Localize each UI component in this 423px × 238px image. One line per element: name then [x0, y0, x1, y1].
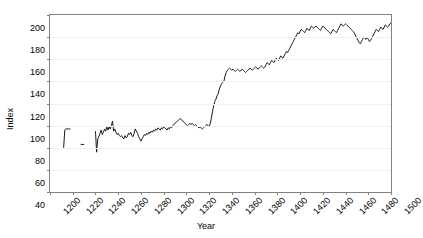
y-tick-label: 80	[35, 156, 45, 165]
x-tick-label: 1220	[85, 196, 106, 217]
x-tick-label: 1400	[289, 196, 310, 217]
series-segment	[95, 23, 391, 152]
y-tick-mark	[47, 126, 50, 127]
y-tick-label: 60	[35, 178, 45, 187]
y-tick-label: 160	[30, 68, 45, 77]
y-tick-mark	[47, 81, 50, 82]
x-tick-label: 1460	[357, 196, 378, 217]
y-tick-mark	[47, 37, 50, 38]
y-tick-label: 140	[30, 90, 45, 99]
y-tick-label: 200	[30, 24, 45, 33]
x-axis-title: Year	[0, 221, 412, 231]
y-tick-mark	[47, 148, 50, 149]
gridline-y	[50, 126, 391, 127]
gridline-y	[50, 104, 391, 105]
x-tick-label: 1340	[221, 196, 242, 217]
y-tick-label: 120	[30, 112, 45, 121]
x-tick-label: 1440	[335, 196, 356, 217]
gridline-y	[50, 37, 391, 38]
y-axis-labels: 406080100120140160180200	[0, 14, 45, 193]
x-tick-label: 1500	[403, 196, 423, 217]
x-tick-label: 1480	[380, 196, 401, 217]
y-tick-label: 100	[30, 134, 45, 143]
y-tick-mark	[47, 170, 50, 171]
plot-area	[49, 14, 392, 193]
y-tick-label: 40	[35, 201, 45, 210]
y-tick-mark	[47, 59, 50, 60]
x-tick-label: 1300	[176, 196, 197, 217]
y-tick-label: 180	[30, 46, 45, 55]
y-tick-mark	[47, 104, 50, 105]
x-tick-label: 1360	[244, 196, 265, 217]
series-segment	[64, 129, 71, 148]
x-tick-label: 1320	[198, 196, 219, 217]
y-tick-mark	[47, 15, 50, 16]
x-tick-label: 1380	[266, 196, 287, 217]
gridline-y	[50, 59, 391, 60]
x-tick-label: 1280	[153, 196, 174, 217]
gridline-y	[50, 170, 391, 171]
x-tick-label: 1420	[312, 196, 333, 217]
x-tick-label: 1240	[107, 196, 128, 217]
gridline-y	[50, 81, 391, 82]
x-tick-label: 1200	[62, 196, 83, 217]
gridline-y	[50, 148, 391, 149]
x-tick-label: 1260	[130, 196, 151, 217]
